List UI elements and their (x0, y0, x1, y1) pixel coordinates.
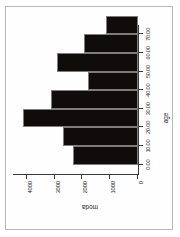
bar (57, 53, 138, 72)
y-axis-tick (26, 174, 27, 179)
y-axis-tick (109, 174, 110, 179)
y-axis-tick (54, 174, 55, 179)
y-axis-title: moda (82, 204, 98, 211)
x-axis-tick (138, 108, 143, 109)
plot-area: 010002000300040000.0010.0020.0030.0040.0… (13, 25, 139, 175)
histogram-chart: moda age 010002000300040000.0010.0020.00… (7, 17, 173, 219)
x-axis-tick (138, 71, 143, 72)
x-axis-tick (138, 164, 143, 165)
rotated-figure-container: moda age 010002000300040000.0010.0020.00… (7, 17, 173, 219)
bar (51, 90, 139, 109)
x-axis-tick (138, 145, 143, 146)
x-axis-tick-label: 50.00 (145, 65, 151, 78)
bar (63, 127, 138, 146)
bar (84, 34, 138, 53)
x-axis-tick-label: 30.00 (145, 102, 151, 115)
bar (88, 72, 138, 91)
x-axis-tick-label: 0.00 (145, 160, 151, 170)
y-axis-tick (81, 174, 82, 179)
x-axis-tick (138, 33, 143, 34)
x-axis-tick-label: 10.00 (145, 140, 151, 153)
x-axis-tick (138, 52, 143, 53)
bar (23, 109, 138, 128)
bar (106, 16, 138, 35)
y-axis-tick (137, 174, 138, 179)
x-axis-tick (138, 89, 143, 90)
x-axis-tick-label: 70.00 (145, 28, 151, 41)
x-axis-tick-label: 20.00 (145, 121, 151, 134)
bar (73, 146, 138, 165)
x-axis-tick (138, 126, 143, 127)
figure-page: moda age 010002000300040000.0010.0020.00… (5, 6, 173, 230)
x-axis-title: age (162, 17, 169, 219)
x-axis-tick-label: 60.00 (145, 46, 151, 59)
x-axis-tick-label: 40.00 (145, 84, 151, 97)
